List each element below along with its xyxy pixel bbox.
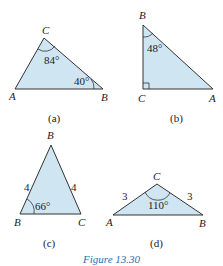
vertex-label-b: B [199,217,206,229]
triangle-c: B B C 4 4 66° (c) [14,129,86,250]
angle-label-b: 40° [74,75,89,87]
figure-caption: Figure 13.30 [82,253,141,265]
vertex-label-right: C [78,216,86,228]
caption-a: (a) [48,112,61,125]
vertex-label-c: C [153,170,161,182]
angle-label-b: 48° [147,42,162,54]
caption-c: (c) [43,237,56,250]
vertex-label-c: C [138,92,146,104]
vertex-label-left: B [14,216,21,228]
angle-label-c: 110° [148,199,169,211]
caption-d: (d) [150,237,163,250]
vertex-label-b: B [139,9,146,21]
figure-13-30: C A B 84° 40° (a) B C A 48° (b) B B C 4 … [0,0,223,266]
caption-b: (b) [170,112,183,125]
vertex-label-c: C [42,24,50,36]
angle-label-c: 84° [44,54,59,66]
triangle-b-shape [143,25,213,89]
vertex-label-a: A [105,216,113,228]
vertex-label-top: B [47,129,54,141]
triangle-b: B C A 48° (b) [138,9,216,125]
side-label-right: 4 [71,181,77,193]
vertex-label-a: A [8,90,16,102]
angle-label-left: 66° [35,200,50,212]
side-label-left: 4 [24,181,30,193]
triangle-d: C A B 3 3 110° (d) [105,170,206,250]
vertex-label-a: A [208,92,216,104]
vertex-label-b: B [101,91,108,103]
side-label-ac: 3 [122,190,128,202]
side-label-cb: 3 [187,190,193,202]
triangle-c-shape [20,145,81,214]
triangle-a: C A B 84° 40° (a) [8,24,108,125]
